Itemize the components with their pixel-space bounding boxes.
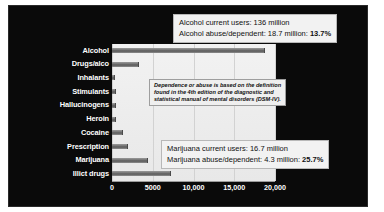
callout-marijuana-line-2: Marijuana abuse/dependent: 4.3 million: … — [167, 155, 323, 166]
bar-drugs-alco — [112, 62, 139, 67]
category-label-inhalants: Inhalants — [21, 74, 109, 82]
dsm-definition-note: Dependence or abuse is based on the defi… — [149, 79, 286, 106]
x-tick-15000: 15,000 — [223, 183, 245, 192]
callout-marijuana-line-1: Marijuana current users: 16.7 million — [167, 144, 323, 155]
bar-inhalants — [112, 75, 115, 80]
bar-hallucinogens — [112, 103, 116, 108]
category-label-illict-drugs: Illict drugs — [21, 170, 109, 178]
bar-prescription — [112, 144, 128, 149]
x-tick-10000: 10,000 — [183, 183, 205, 192]
note-line-3: statistical manual of mental disorders (… — [154, 96, 281, 103]
category-label-drugs-alco: Drugs/alco — [21, 60, 109, 68]
callout-alcohol: Alcohol current users: 136 million Alcoh… — [173, 14, 337, 43]
callout-alcohol-line-1: Alcohol current users: 136 million — [179, 18, 331, 29]
bar-marijuana — [112, 158, 148, 163]
bar-stimulants — [112, 89, 116, 94]
category-label-stimulants: Stimulants — [21, 88, 109, 96]
category-label-alcohol: Alcohol — [21, 47, 109, 55]
slide-canvas: AlcoholDrugs/alcoInhalantsStimulantsHall… — [0, 0, 384, 212]
callout-alcohol-line-2-text: Alcohol abuse/dependent: 18.7 million: — [179, 29, 310, 38]
category-label-hallucinogens: Hallucinogens — [21, 101, 109, 109]
callout-alcohol-line-2: Alcohol abuse/dependent: 18.7 million: 1… — [179, 29, 331, 40]
bar-illict-drugs — [112, 171, 171, 176]
gridline-5000 — [153, 44, 154, 181]
category-label-marijuana: Marijuana — [21, 156, 109, 164]
callout-marijuana-line-2-text: Marijuana abuse/dependent: 4.3 million: — [167, 155, 302, 164]
x-tick-5000: 5000 — [145, 183, 161, 192]
category-label-prescription: Prescription — [21, 143, 109, 151]
callout-alcohol-percent: 13.7% — [310, 29, 331, 38]
bar-cocaine — [112, 130, 123, 135]
category-label-cocaine: Cocaine — [21, 129, 109, 137]
category-label-heroin: Heroin — [21, 115, 109, 123]
x-axis-line — [112, 181, 275, 182]
note-line-1: Dependence or abuse is based on the defi… — [154, 82, 281, 89]
callout-marijuana-percent: 25.7% — [302, 155, 323, 164]
callout-marijuana: Marijuana current users: 16.7 million Ma… — [161, 140, 329, 169]
bar-alcohol — [112, 48, 265, 53]
chart-panel: AlcoholDrugs/alcoInhalantsStimulantsHall… — [9, 6, 367, 206]
note-line-2: found in the 4th edition of the diagnost… — [154, 89, 281, 96]
bar-heroin — [112, 117, 116, 122]
category-axis-labels: AlcoholDrugs/alcoInhalantsStimulantsHall… — [21, 44, 109, 181]
x-tick-20000: 20,000 — [264, 183, 286, 192]
x-tick-0: 0 — [110, 183, 114, 192]
